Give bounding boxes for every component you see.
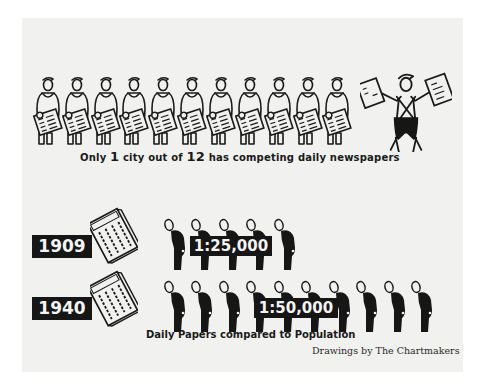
caption-text: Only (80, 152, 110, 163)
newsboy-icon (119, 75, 149, 147)
newsboy-icon (235, 75, 265, 147)
credit-line: Drawings by The Chartmakers (312, 345, 460, 356)
ratio-label-1909: 1:25,000 (190, 236, 272, 256)
caption-text: has competing daily newspapers (205, 152, 400, 163)
newspaper-icon (90, 270, 138, 328)
person-icon (273, 218, 299, 270)
caption-text: city out of (119, 152, 186, 163)
newsboy-icon (33, 75, 63, 147)
shouting-newsboy-icon (360, 70, 452, 152)
newsboy-icon (148, 75, 178, 147)
person-icon (163, 218, 189, 270)
ratio-label-1940: 1:50,000 (254, 298, 338, 318)
person-icon (163, 280, 189, 332)
person-icon (218, 280, 244, 332)
newsboy-icon (293, 75, 323, 147)
year-label-1909: 1909 (32, 235, 92, 258)
newsboy-icon (91, 75, 121, 147)
population-caption: Daily Papers compared to Population (146, 329, 355, 340)
year-label-1940: 1940 (32, 297, 92, 320)
person-icon (190, 280, 216, 332)
newsboy-icon (264, 75, 294, 147)
newsboy-icon (322, 75, 352, 147)
person-icon (410, 280, 436, 332)
newsboy-icon (177, 75, 207, 147)
competition-caption: Only 1 city out of 12 has competing dail… (80, 149, 400, 164)
person-icon (355, 280, 381, 332)
caption-number: 1 (110, 149, 119, 164)
person-icon (383, 280, 409, 332)
newspaper-icon (90, 207, 138, 265)
newsboy-icon (62, 75, 92, 147)
caption-number: 12 (186, 149, 205, 164)
newsboy-icon (206, 75, 236, 147)
